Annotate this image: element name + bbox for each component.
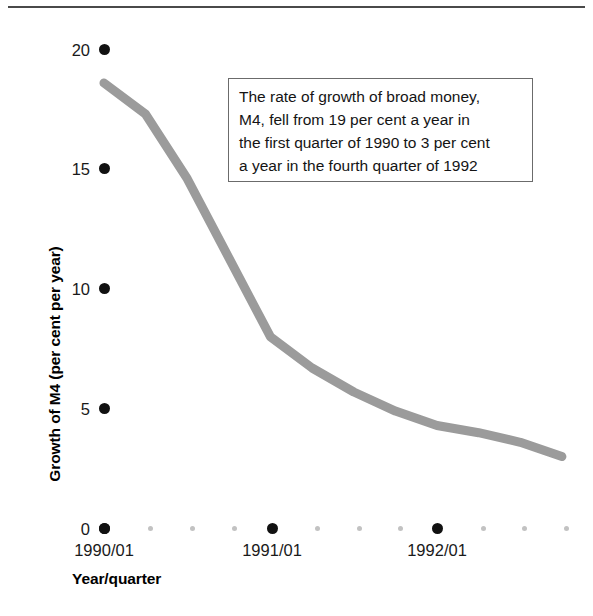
y-tick-dot-5 (99, 403, 110, 414)
y-tick-label-15: 15 (56, 161, 90, 178)
callout-line-3: the first quarter of 1990 to 3 per cent (239, 131, 524, 154)
x-dot-minor-1991-02 (315, 526, 320, 531)
x-dot-minor-1991-04 (398, 526, 403, 531)
y-tick-label-20: 20 (56, 42, 90, 59)
callout-line-1: The rate of growth of broad money, (239, 85, 524, 108)
x-dot-minor-1990-03 (190, 526, 195, 531)
x-dot-minor-1990-04 (232, 526, 237, 531)
y-tick-label-0: 0 (56, 521, 90, 538)
x-tick-label-1990-01: 1990/01 (74, 542, 134, 559)
x-dot-minor-1992-02 (481, 526, 486, 531)
chart-figure: Growth of M4 (per cent per year) 20 15 1… (0, 0, 593, 616)
annotation-callout: The rate of growth of broad money, M4, f… (228, 78, 533, 182)
x-dot-major-1991-01 (267, 523, 278, 534)
callout-line-4: a year in the fourth quarter of 1992 (239, 154, 524, 177)
y-tick-label-5: 5 (56, 401, 90, 418)
x-dot-major-1990-01 (99, 523, 110, 534)
x-dot-major-1992-01 (432, 523, 443, 534)
y-tick-dot-15 (99, 163, 110, 174)
y-tick-label-10: 10 (56, 281, 90, 298)
x-dot-minor-1992-04 (564, 526, 569, 531)
callout-line-2: M4, fell from 19 per cent a year in (239, 108, 524, 131)
y-axis-title: Growth of M4 (per cent per year) (46, 189, 64, 539)
x-tick-label-1992-01: 1992/01 (407, 542, 467, 559)
x-dot-minor-1990-02 (148, 526, 153, 531)
y-tick-dot-20 (99, 44, 110, 55)
y-tick-dot-10 (99, 283, 110, 294)
x-axis-title: Year/quarter (72, 570, 161, 588)
x-dot-minor-1991-03 (357, 526, 362, 531)
x-tick-label-1991-01: 1991/01 (242, 542, 302, 559)
x-dot-minor-1992-03 (522, 526, 527, 531)
top-divider-rule (8, 6, 585, 8)
